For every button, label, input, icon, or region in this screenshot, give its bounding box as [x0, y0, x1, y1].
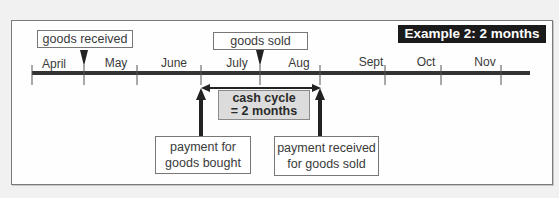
month-label-may: May	[91, 56, 141, 70]
goods-sold-label: goods sold	[213, 32, 308, 50]
payment-bought-line2: goods bought	[156, 155, 250, 171]
month-label-june: June	[149, 56, 199, 70]
diagram-stage: goods received goods sold Example 2: 2 m…	[0, 0, 559, 198]
payment-bought-arrow-head-icon	[196, 88, 206, 100]
cash-cycle-box: cash cycle = 2 months	[218, 90, 310, 120]
cash-cycle-arrow-left-icon	[201, 84, 210, 92]
month-label-aug: Aug	[274, 56, 324, 70]
cash-cycle-line2: = 2 months	[219, 105, 309, 118]
goods-received-label: goods received	[37, 30, 133, 48]
month-label-nov: Nov	[460, 55, 510, 69]
example-title-badge: Example 2: 2 months	[398, 25, 546, 43]
payment-received-line1: payment received	[275, 140, 378, 156]
payment-received-line2: for goods sold	[275, 156, 378, 172]
goods-received-marker-icon	[80, 50, 88, 66]
payment-for-goods-bought-box: payment for goods bought	[155, 136, 251, 174]
payment-bought-line1: payment for	[156, 139, 250, 155]
payment-received-for-goods-sold-box: payment received for goods sold	[274, 136, 379, 176]
month-label-sept: Sept	[346, 55, 396, 69]
month-label-july: July	[212, 56, 262, 70]
month-label-oct: Oct	[401, 55, 451, 69]
month-label-april: April	[29, 57, 79, 71]
